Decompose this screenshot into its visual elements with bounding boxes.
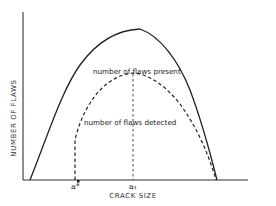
- y-axis-label: NUMBER OF FLAWS: [10, 79, 18, 156]
- x-axis-label: CRACK SIZE: [109, 192, 157, 200]
- flaw-distribution-chart: number of flaws present number of flaws …: [0, 0, 276, 206]
- x-tick-a-star: a*: [71, 182, 80, 191]
- flaws-present-label: number of flaws present: [93, 67, 181, 76]
- flaws-present-curve: [30, 29, 217, 180]
- x-tick-a1: a₁: [129, 182, 137, 191]
- flaws-detected-label: number of flaws detected: [84, 118, 176, 127]
